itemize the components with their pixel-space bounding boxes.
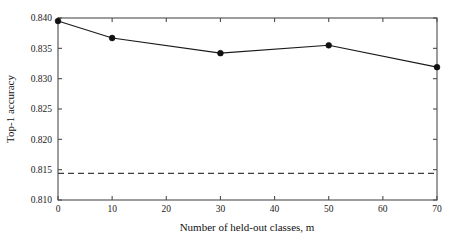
x-tick-label: 0: [56, 204, 61, 214]
x-tick-label: 20: [162, 204, 172, 214]
y-tick-label: 0.815: [31, 165, 53, 175]
data-series-line: [58, 21, 437, 67]
x-axis-label: Number of held-out classes, m: [180, 221, 315, 233]
x-tick-label: 70: [432, 204, 442, 214]
x-tick-label: 40: [270, 204, 280, 214]
y-tick-label: 0.820: [31, 135, 53, 145]
y-tick-label: 0.825: [31, 104, 53, 114]
x-tick-label: 60: [378, 204, 388, 214]
y-tick-label: 0.830: [31, 74, 53, 84]
data-point-marker: [218, 50, 224, 56]
x-tick-label: 50: [324, 204, 334, 214]
y-tick-label: 0.840: [31, 13, 53, 23]
y-tick-label: 0.810: [31, 195, 53, 205]
data-point-marker: [434, 64, 440, 70]
x-axis-ticks: 010203040506070: [56, 18, 442, 214]
data-point-marker: [55, 18, 61, 24]
data-point-markers: [55, 18, 440, 70]
y-axis-label: Top-1 accuracy: [4, 75, 16, 143]
y-axis-ticks: 0.8100.8150.8200.8250.8300.8350.840: [31, 13, 437, 205]
x-tick-label: 10: [107, 204, 117, 214]
axes-frame: [58, 18, 437, 200]
plot-canvas: 0.8100.8150.8200.8250.8300.8350.840 0102…: [0, 0, 461, 240]
data-point-marker: [109, 35, 115, 41]
y-tick-label: 0.835: [31, 44, 53, 54]
x-tick-label: 30: [216, 204, 226, 214]
chart-figure: 0.8100.8150.8200.8250.8300.8350.840 0102…: [0, 0, 461, 240]
data-point-marker: [326, 42, 332, 48]
